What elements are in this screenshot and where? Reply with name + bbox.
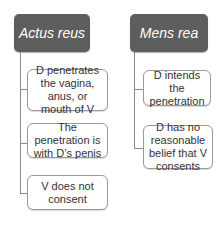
- actus-reus-header: Actus reus: [14, 14, 90, 52]
- connector-branch: [20, 89, 27, 90]
- connector-branch: [134, 148, 143, 149]
- mens-rea-item-intent: D intends the penetration: [143, 70, 211, 106]
- connector-branch: [20, 193, 27, 194]
- actus-reus-item-penetration: D penetrates the vagina, anus, or mouth …: [27, 69, 108, 111]
- mens-rea-item-no-belief: D has no reasonable belief that V consen…: [143, 125, 213, 169]
- connector-branch: [20, 143, 27, 144]
- actus-reus-item-penis: The penetration is with D’s penis: [27, 123, 108, 158]
- actus-reus-item-no-consent: V does not consent: [27, 175, 108, 210]
- connector-branch: [134, 89, 143, 90]
- mens-rea-header: Mens rea: [130, 14, 208, 52]
- actus-reus-connector: [20, 52, 21, 193]
- mens-rea-connector: [134, 52, 135, 148]
